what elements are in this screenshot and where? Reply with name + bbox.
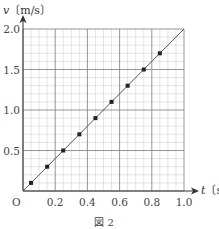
data-point — [93, 116, 97, 120]
y-axis-label: v〔m/s〕 — [3, 4, 51, 17]
data-point — [110, 100, 114, 104]
x-tick-labels: 0.20.40.60.81.0 — [47, 196, 193, 208]
y-tick-label: 1.5 — [3, 64, 20, 76]
y-tick-label: 0.5 — [3, 145, 20, 157]
x-tick-label: 0.6 — [111, 196, 128, 208]
x-tick-label: 0.4 — [79, 196, 96, 208]
data-point — [77, 132, 81, 136]
data-point — [29, 181, 33, 185]
figure-caption: 図 2 — [94, 217, 114, 228]
velocity-time-chart: v〔m/s〕 t〔s〕 O 0.51.01.52.0 0.20.40.60.81… — [0, 0, 219, 229]
data-point — [126, 84, 130, 88]
data-point — [45, 165, 49, 169]
data-point — [158, 51, 162, 55]
y-tick-labels: 0.51.01.52.0 — [3, 23, 20, 157]
data-point — [142, 68, 146, 72]
x-tick-label: 1.0 — [176, 196, 193, 208]
origin-label: O — [12, 196, 21, 208]
x-axis-label: t〔s〕 — [201, 184, 219, 197]
x-tick-label: 0.8 — [143, 196, 160, 208]
x-tick-label: 0.2 — [47, 196, 64, 208]
data-point — [61, 149, 65, 153]
y-tick-label: 1.0 — [3, 104, 20, 116]
y-tick-label: 2.0 — [3, 23, 20, 35]
